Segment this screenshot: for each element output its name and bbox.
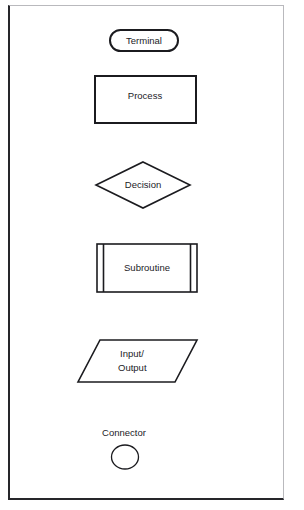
symbol-process[interactable]: Process (95, 76, 196, 123)
subroutine-label: Subroutine (124, 262, 170, 273)
symbol-decision[interactable]: Decision (96, 162, 190, 208)
process-label: Process (128, 90, 163, 101)
symbol-input-output[interactable]: Input/ Output (78, 340, 197, 382)
symbol-subroutine[interactable]: Subroutine (97, 244, 197, 292)
input-output-label-line-1: Input/ (120, 348, 144, 359)
symbol-terminal[interactable]: Terminal (110, 30, 178, 51)
flowchart-page: Terminal Process Decision Subroutine Inp… (0, 0, 304, 510)
connector-label: Connector (102, 427, 146, 438)
input-output-label-line-2: Output (118, 362, 147, 373)
decision-label: Decision (125, 179, 161, 190)
connector-shape (112, 445, 139, 469)
input-output-shape (78, 340, 197, 382)
terminal-label: Terminal (126, 35, 162, 46)
symbol-connector[interactable]: Connector (102, 427, 146, 469)
flowchart-symbols-canvas: Terminal Process Decision Subroutine Inp… (0, 0, 304, 510)
